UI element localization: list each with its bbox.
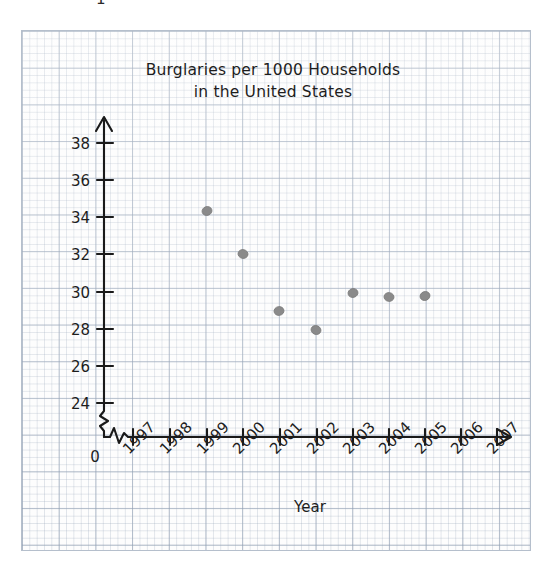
y-tick-label-26: 26 <box>71 358 90 376</box>
x-axis: 1997 1998 1999 2000 2001 2002 2003 2004 … <box>104 418 523 516</box>
y-tick-label-32: 32 <box>71 246 90 264</box>
chart-title-line-1: Burglaries per 1000 Households <box>146 61 401 79</box>
origin-label: 0 <box>90 448 100 466</box>
data-point-2001[interactable] <box>273 306 284 316</box>
y-axis: 38 36 34 32 30 28 26 24 0 <box>71 117 113 466</box>
scatter-plot: Burglaries per 1000 Households in the Un… <box>0 0 547 567</box>
data-point-2004[interactable] <box>383 292 394 302</box>
y-tick-label-28: 28 <box>71 321 90 339</box>
y-tick-label-38: 38 <box>71 135 90 153</box>
data-points <box>201 205 431 336</box>
y-axis-line <box>100 120 108 437</box>
data-point-2003[interactable] <box>347 288 359 299</box>
y-axis-tick-labels: 38 36 34 32 30 28 26 24 <box>71 135 90 413</box>
x-tick-label-2007: 2007 <box>483 418 523 458</box>
chart-title-line-2: in the United States <box>194 83 352 101</box>
y-tick-label-34: 34 <box>71 209 90 227</box>
data-point-2000[interactable] <box>237 249 249 260</box>
x-axis-tick-labels: 1997 1998 1999 2000 2001 2002 2003 2004 … <box>119 418 523 458</box>
x-axis-label: Year <box>293 498 327 516</box>
chart-title: Burglaries per 1000 Households in the Un… <box>146 61 401 101</box>
data-point-2002[interactable] <box>310 324 322 336</box>
y-tick-label-30: 30 <box>71 284 90 302</box>
data-point-1999[interactable] <box>201 205 213 216</box>
data-point-2005[interactable] <box>419 290 431 302</box>
y-tick-label-24: 24 <box>71 395 90 413</box>
y-tick-label-36: 36 <box>71 172 90 190</box>
